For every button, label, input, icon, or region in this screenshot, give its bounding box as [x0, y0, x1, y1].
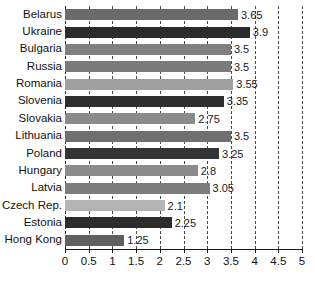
category-label-romania: Romania	[16, 78, 62, 90]
bar-row: 2.1	[65, 200, 302, 211]
bar-row: 3.55	[65, 79, 302, 90]
x-tick-label-2.5: 2.5	[176, 256, 192, 268]
bar-value-label: 3.5	[231, 61, 249, 72]
x-tick-3	[207, 249, 208, 253]
gridline-1	[112, 6, 113, 249]
gridline-0.5	[89, 6, 90, 249]
x-tick-0	[65, 249, 66, 253]
bar-value-label: 3.5	[231, 44, 249, 55]
bar-latvia	[65, 183, 210, 194]
category-label-estonia: Estonia	[24, 217, 62, 229]
gridline-1.5	[136, 6, 137, 249]
category-label-latvia: Latvia	[31, 183, 62, 195]
x-tick-5	[302, 249, 303, 253]
x-tick-2	[160, 249, 161, 253]
bar-chart: BelarusUkraineBulgariaRussiaRomaniaSlove…	[0, 0, 315, 281]
category-label-belarus: Belarus	[23, 9, 62, 21]
bar-row: 3.65	[65, 9, 302, 20]
category-label-wrap: Belarus	[0, 9, 62, 20]
category-label-czech-rep: Czech Rep.	[2, 200, 62, 212]
x-tick-3.5	[231, 249, 232, 253]
bar-row: 3.25	[65, 148, 302, 159]
gridline-5	[302, 6, 303, 249]
category-label-wrap: Slovakia	[0, 113, 62, 124]
gridline-2.5	[184, 6, 185, 249]
gridline-3.5	[231, 6, 232, 249]
category-label-hungary: Hungary	[19, 165, 62, 177]
bar-slovenia	[65, 96, 224, 107]
bar-hungary	[65, 165, 198, 176]
bar-row: 3.5	[65, 44, 302, 55]
category-label-wrap: Bulgaria	[0, 44, 62, 55]
x-tick-label-4.5: 4.5	[270, 256, 286, 268]
plot-area: 3.653.93.53.53.553.352.753.53.252.83.052…	[65, 6, 302, 249]
x-tick-label-5: 5	[299, 256, 305, 268]
x-tick-1.5	[136, 249, 137, 253]
x-tick-0.5	[89, 249, 90, 253]
category-label-ukraine: Ukraine	[22, 26, 62, 38]
category-label-poland: Poland	[26, 148, 62, 160]
bar-bulgaria	[65, 44, 231, 55]
bar-row: 1.25	[65, 235, 302, 246]
gridline-3	[207, 6, 208, 249]
x-tick-label-2: 2	[157, 256, 163, 268]
bar-value-label: 3.9	[250, 27, 268, 38]
bar-value-label: 2.1	[165, 200, 183, 211]
bar-value-label: 3.65	[238, 9, 262, 20]
bar-value-label: 2.25	[172, 217, 196, 228]
category-label-wrap: Estonia	[0, 217, 62, 228]
bar-value-label: 3.25	[219, 148, 243, 159]
bar-row: 3.35	[65, 96, 302, 107]
category-label-russia: Russia	[27, 61, 62, 73]
x-tick-label-4: 4	[251, 256, 257, 268]
gridline-0	[65, 6, 66, 249]
bar-row: 3.5	[65, 131, 302, 142]
category-label-wrap: Romania	[0, 79, 62, 90]
gridline-2	[160, 6, 161, 249]
bar-row: 2.75	[65, 113, 302, 124]
x-tick-label-3.5: 3.5	[223, 256, 239, 268]
bar-row: 2.25	[65, 217, 302, 228]
category-label-wrap: Russia	[0, 61, 62, 72]
x-tick-2.5	[184, 249, 185, 253]
x-tick-label-3: 3	[204, 256, 210, 268]
category-label-slovenia: Slovenia	[18, 96, 62, 108]
bar-row: 2.8	[65, 165, 302, 176]
bar-value-label: 3.55	[233, 79, 257, 90]
category-label-slovakia: Slovakia	[19, 113, 62, 125]
category-label-wrap: Hong Kong	[0, 235, 62, 246]
bar-estonia	[65, 217, 172, 228]
bar-romania	[65, 79, 233, 90]
bar-row: 3.05	[65, 183, 302, 194]
gridline-4	[255, 6, 256, 249]
bar-value-label: 3.5	[231, 131, 249, 142]
x-tick-label-0: 0	[62, 256, 68, 268]
x-tick-1	[112, 249, 113, 253]
bar-value-label: 3.35	[224, 96, 248, 107]
category-label-wrap: Latvia	[0, 183, 62, 194]
bar-slovakia	[65, 113, 195, 124]
bar-ukraine	[65, 27, 250, 38]
x-tick-4.5	[278, 249, 279, 253]
bar-value-label: 2.75	[195, 113, 219, 124]
category-label-wrap: Lithuania	[0, 131, 62, 142]
bar-value-label: 3.05	[210, 183, 234, 194]
bar-value-label: 2.8	[198, 165, 216, 176]
bar-belarus	[65, 9, 238, 20]
bar-row: 3.5	[65, 61, 302, 72]
category-label-lithuania: Lithuania	[15, 130, 62, 142]
gridline-4.5	[278, 6, 279, 249]
category-label-wrap: Hungary	[0, 165, 62, 176]
category-label-hong-kong: Hong Kong	[4, 235, 62, 247]
bar-czech-rep	[65, 200, 165, 211]
category-label-wrap: Slovenia	[0, 96, 62, 107]
category-label-wrap: Poland	[0, 148, 62, 159]
category-label-wrap: Czech Rep.	[0, 200, 62, 211]
bar-lithuania	[65, 131, 231, 142]
category-label-wrap: Ukraine	[0, 27, 62, 38]
x-tick-label-1.5: 1.5	[128, 256, 144, 268]
x-tick-4	[255, 249, 256, 253]
bar-russia	[65, 61, 231, 72]
bar-poland	[65, 148, 219, 159]
category-label-bulgaria: Bulgaria	[20, 44, 62, 56]
